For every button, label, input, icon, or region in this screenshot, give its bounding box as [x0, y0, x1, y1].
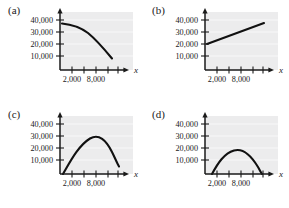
panel-d-chart: 40,000 30,000 20,000 10,000 2,000 8,000 …	[144, 104, 289, 208]
y-tick-label: 10,000	[30, 156, 53, 165]
x-tick-labels: 2,000 8,000	[208, 75, 250, 84]
y-tick-label: 40,000	[175, 16, 198, 25]
y-tick-label: 40,000	[30, 120, 53, 129]
y-tick-label: 40,000	[30, 16, 53, 25]
y-tick-label: 30,000	[30, 28, 53, 37]
x-tick-label: 2,000	[63, 179, 81, 188]
panel-a-chart: 40,000 30,000 20,000 10,000 2,000 8,000 …	[0, 0, 144, 104]
y-tick-label: 20,000	[175, 40, 198, 49]
x-tick-label: 2,000	[208, 179, 226, 188]
x-tick-label: 8,000	[232, 75, 250, 84]
y-tick-label: 10,000	[30, 52, 53, 61]
x-tick-label: 8,000	[87, 179, 105, 188]
x-tick-labels: 2,000 8,000	[63, 179, 105, 188]
x-tick-labels: 2,000 8,000	[208, 179, 250, 188]
y-tick-label: 20,000	[30, 40, 53, 49]
panel-d: (d) 40,000 30,000 20,000	[144, 104, 289, 208]
x-tick-labels: 2,000 8,000	[63, 75, 105, 84]
y-tick-label: 20,000	[30, 144, 53, 153]
x-tick-label: 8,000	[232, 179, 250, 188]
y-tick-label: 30,000	[175, 28, 198, 37]
x-axis-label: x	[278, 169, 283, 179]
x-axis-label: x	[133, 65, 138, 75]
y-tick-label: 30,000	[175, 132, 198, 141]
y-tick-labels: 40,000 30,000 20,000 10,000	[30, 120, 53, 165]
y-tick-labels: 40,000 30,000 20,000 10,000	[30, 16, 53, 61]
panel-b: (b) 40,000 30,000 20,000	[144, 0, 289, 104]
panel-c-chart: 40,000 30,000 20,000 10,000 2,000 8,000 …	[0, 104, 144, 208]
y-tick-label: 20,000	[175, 144, 198, 153]
y-tick-label: 30,000	[30, 132, 53, 141]
panel-b-chart: 40,000 30,000 20,000 10,000 2,000 8,000 …	[144, 0, 289, 104]
x-tick-label: 2,000	[63, 75, 81, 84]
x-tick-label: 2,000	[208, 75, 226, 84]
panel-c: (c) 40,000 30,000 20,000	[0, 104, 144, 208]
x-axis-label: x	[133, 169, 138, 179]
plot-background	[60, 116, 133, 174]
four-panel-graph-figure: (a) 40,000 30,000 20,000	[0, 0, 289, 208]
y-tick-label: 40,000	[175, 120, 198, 129]
panel-a: (a) 40,000 30,000 20,000	[0, 0, 144, 104]
y-tick-labels: 40,000 30,000 20,000 10,000	[175, 16, 198, 61]
y-tick-label: 10,000	[175, 156, 198, 165]
x-tick-label: 8,000	[87, 75, 105, 84]
x-axis-label: x	[278, 65, 283, 75]
y-tick-label: 10,000	[175, 52, 198, 61]
y-tick-labels: 40,000 30,000 20,000 10,000	[175, 120, 198, 165]
